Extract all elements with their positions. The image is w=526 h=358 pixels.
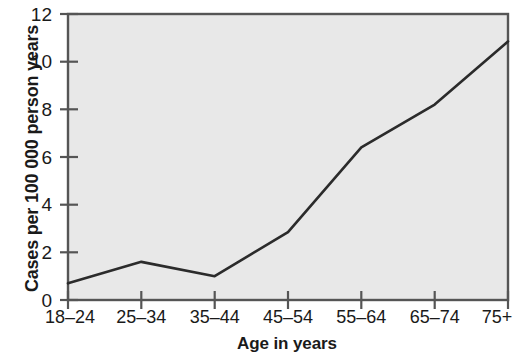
x-axis-label-18-24: 18–24 bbox=[45, 306, 95, 328]
x-axis-label-35-44: 35–44 bbox=[190, 306, 240, 328]
line-chart-figure: 12 10 8 6 4 2 0 18–24 25–34 35–44 45–54 … bbox=[0, 0, 526, 358]
x-axis-label-25-34: 25–34 bbox=[116, 306, 166, 328]
chart-plot-area bbox=[0, 0, 526, 358]
x-axis-label-45-54: 45–54 bbox=[263, 306, 313, 328]
plot-background bbox=[68, 14, 508, 300]
x-axis-title: Age in years bbox=[66, 334, 508, 354]
x-axis-label-65-74: 65–74 bbox=[410, 306, 460, 328]
x-axis-label-75-plus: 75+ bbox=[482, 306, 513, 328]
y-axis-title: Cases per 100 000 person years bbox=[22, 9, 43, 309]
x-axis-label-55-64: 55–64 bbox=[336, 306, 386, 328]
x-axis-tick-labels: 18–24 25–34 35–44 45–54 55–64 65–74 75+ bbox=[0, 306, 526, 334]
